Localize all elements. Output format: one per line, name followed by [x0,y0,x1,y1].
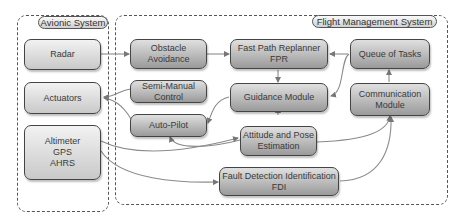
obstacle-avoidance-label-line1: Obstacle [151,43,187,54]
gps-label: GPS [53,147,72,158]
radar-label: Radar [50,49,75,60]
semi-manual-control-node: Semi-Manual Control [130,80,207,103]
attitude-pose-label-line1: Attitude and Pose [243,130,314,141]
semi-manual-control-label-line2: Control [154,92,183,103]
system-architecture-diagram: Avionic System Flight Management System [0,0,454,222]
fpr-label-line1: Fast Path Replanner [238,43,321,54]
queue-of-tasks-node: Queue of Tasks [350,39,430,69]
fpr-label-line2: FPR [270,54,288,65]
guidance-module-node: Guidance Module [230,83,328,112]
semi-manual-control-label-line1: Semi-Manual [142,81,195,92]
attitude-pose-estimation-node: Attitude and Pose Estimation [240,126,317,156]
sensors-node: Altimeter GPS AHRS [24,125,101,180]
altimeter-label: Altimeter [45,136,81,147]
actuators-node: Actuators [24,82,101,114]
fdi-label-line1: Fault Detection Identification [222,171,336,182]
auto-pilot-label: Auto-Pilot [149,120,188,131]
auto-pilot-node: Auto-Pilot [130,114,207,137]
fault-detection-identification-node: Fault Detection Identification FDI [219,167,339,196]
obstacle-avoidance-node: Obstacle Avoidance [130,39,207,69]
communication-module-label-line2: Module [375,100,405,111]
radar-node: Radar [24,39,101,70]
avionic-system-label: Avionic System [38,16,108,29]
communication-module-node: Communication Module [350,83,430,116]
communication-module-label-line1: Communication [359,89,422,100]
ahrs-label: AHRS [50,158,75,169]
fdi-label-line2: FDI [272,182,287,193]
attitude-pose-label-line2: Estimation [257,141,299,152]
guidance-module-label: Guidance Module [244,92,315,103]
fast-path-replanner-node: Fast Path Replanner FPR [230,39,328,69]
flight-management-system-label: Flight Management System [312,15,437,28]
obstacle-avoidance-label-line2: Avoidance [148,54,190,65]
queue-of-tasks-label: Queue of Tasks [359,49,421,60]
actuators-label: Actuators [43,93,81,104]
